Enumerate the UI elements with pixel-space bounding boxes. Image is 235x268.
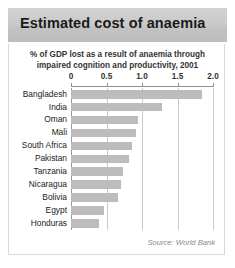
chart-subtitle-line-2: impaired cognition and productivity, 200… xyxy=(19,61,216,72)
chart-subtitle-line-1: % of GDP lost as a result of anaemia thr… xyxy=(19,50,216,61)
category-label: Bangladesh xyxy=(23,89,67,100)
x-tick-label-0: 0 xyxy=(69,72,74,81)
gridline-2.0 xyxy=(213,88,214,230)
bar-row: Nicaragua xyxy=(71,179,213,190)
bar-row: Egypt xyxy=(71,205,213,216)
category-label: Tanzania xyxy=(33,166,67,177)
bar xyxy=(71,116,138,125)
plot-area: BangladeshIndiaOmanMaliSouth AfricaPakis… xyxy=(71,88,213,230)
category-label: Mali xyxy=(52,127,67,138)
x-tick-label-0.5: 0.5 xyxy=(101,72,112,81)
bar-row: South Africa xyxy=(71,140,213,151)
bar xyxy=(71,90,202,99)
x-axis-rule xyxy=(71,86,214,87)
category-label: South Africa xyxy=(22,140,67,151)
bar xyxy=(71,142,132,151)
chart-figure: Estimated cost of anaemia % of GDP lost … xyxy=(0,0,235,268)
category-label: Oman xyxy=(44,114,67,125)
bar xyxy=(71,180,121,189)
chart-header-band: Estimated cost of anaemia xyxy=(8,8,227,42)
x-tick-label-2.0: 2.0 xyxy=(207,72,218,81)
category-label: Honduras xyxy=(31,218,67,229)
bar xyxy=(71,219,99,228)
bar-row: Tanzania xyxy=(71,166,213,177)
bar xyxy=(71,206,104,215)
category-label: Bolivia xyxy=(42,192,67,203)
bar xyxy=(71,129,136,138)
bar-row: Honduras xyxy=(71,218,213,229)
category-label: Nicaragua xyxy=(29,179,67,190)
category-label: Pakistan xyxy=(35,153,67,164)
chart-panel: % of GDP lost as a result of anaemia thr… xyxy=(8,44,225,255)
bar xyxy=(71,155,129,164)
bar-row: Oman xyxy=(71,114,213,125)
bar-row: India xyxy=(71,102,213,113)
category-label: India xyxy=(49,102,67,113)
bar-row: Bolivia xyxy=(71,192,213,203)
source-note: Source: World Bank xyxy=(147,238,215,247)
bar-row: Mali xyxy=(71,127,213,138)
chart-subtitle: % of GDP lost as a result of anaemia thr… xyxy=(19,50,216,71)
bar xyxy=(71,167,123,176)
bar xyxy=(71,193,118,202)
x-tick-label-1.5: 1.5 xyxy=(172,72,183,81)
page-title: Estimated cost of anaemia xyxy=(20,15,205,31)
category-label: Egypt xyxy=(46,205,67,216)
bar xyxy=(71,103,162,112)
x-tick-label-1.0: 1.0 xyxy=(136,72,147,81)
bar-row: Bangladesh xyxy=(71,89,213,100)
bar-row: Pakistan xyxy=(71,153,213,164)
